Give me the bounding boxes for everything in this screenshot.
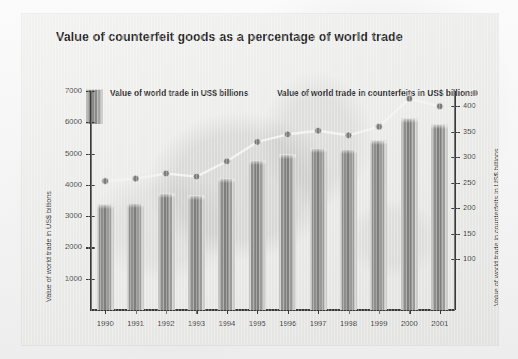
y-axis-left-tick-label: 7000: [44, 86, 82, 95]
chart-panel: Value of counterfeit goods as a percenta…: [22, 14, 498, 345]
line-marker: [345, 132, 352, 139]
y-axis-left-tick-label: 5000: [44, 149, 82, 158]
chart-screenshot: Value of counterfeit goods as a percenta…: [0, 0, 518, 359]
line-marker: [132, 175, 139, 182]
line-marker: [102, 178, 109, 185]
line-marker: [436, 103, 443, 110]
y-axis-left-tick-label: 4000: [44, 180, 82, 189]
line-marker: [315, 127, 322, 134]
y-axis-left-tick-label: 6000: [44, 117, 82, 126]
line-marker: [224, 158, 231, 165]
y-axis-right-title: Value of world trade in counterfeits in …: [492, 148, 498, 306]
line-marker: [163, 170, 170, 177]
y-axis-right-tick-label: 400: [463, 101, 498, 110]
y-axis-right-tick-label: 350: [463, 127, 498, 136]
line-series: [90, 74, 455, 310]
x-axis-tick-label: 2001: [420, 319, 460, 328]
line-marker: [193, 173, 200, 180]
line-path: [105, 99, 440, 182]
line-marker: [254, 139, 261, 146]
y-axis-left-title: Value of world trade in US$ billions: [44, 191, 53, 302]
legend-line-marker-icon: [472, 90, 478, 96]
plot-area: [90, 74, 455, 310]
line-marker: [376, 123, 383, 130]
line-marker: [284, 131, 291, 138]
line-marker: [406, 95, 413, 102]
chart-title: Value of counterfeit goods as a percenta…: [56, 30, 403, 44]
